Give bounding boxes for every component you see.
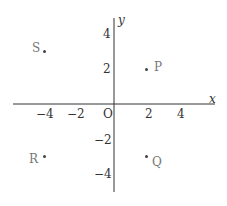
point-s-marker bbox=[43, 50, 46, 53]
point-q-label: Q bbox=[152, 156, 162, 168]
x-tick-label: 4 bbox=[177, 108, 185, 120]
y-tick-label: 4 bbox=[103, 28, 111, 40]
y-tick-label: −2 bbox=[94, 134, 112, 146]
point-s-label: S bbox=[32, 42, 40, 54]
y-axis-label: y bbox=[118, 14, 125, 26]
point-r-marker bbox=[43, 155, 46, 158]
x-axis-label: x bbox=[209, 93, 216, 105]
axes bbox=[0, 0, 227, 206]
x-tick-label: −2 bbox=[67, 108, 85, 120]
origin-label: O bbox=[103, 108, 113, 120]
point-r-label: R bbox=[29, 153, 38, 165]
coordinate-plane: y x −4 −2 O 2 4 4 2 −2 −4 S P R Q bbox=[0, 0, 227, 206]
x-tick-label: −4 bbox=[36, 108, 54, 120]
y-tick-label: −4 bbox=[94, 168, 112, 180]
y-tick-label: 2 bbox=[103, 63, 111, 75]
point-p-label: P bbox=[154, 61, 162, 73]
x-tick-label: 2 bbox=[145, 108, 153, 120]
point-p-marker bbox=[145, 68, 148, 71]
point-q-marker bbox=[145, 155, 148, 158]
